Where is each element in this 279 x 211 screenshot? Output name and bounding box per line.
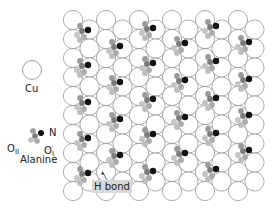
cu-atom [228, 124, 247, 143]
cu-atom [212, 39, 231, 58]
cu-atom [113, 96, 132, 115]
cu-atom [113, 58, 132, 77]
cu-atom [179, 172, 198, 191]
cu-atom [195, 105, 214, 124]
cu-atom [146, 77, 165, 96]
alanine-label: Alanine [20, 155, 57, 165]
oxygen-ii-label: OII [7, 144, 19, 156]
cu-atom [162, 10, 181, 29]
cu-atom [96, 10, 115, 29]
cu-atom [195, 181, 214, 200]
alanine-on-cu-diagram [0, 0, 279, 211]
cu-atom [113, 134, 132, 153]
cu-atom [228, 10, 247, 29]
cu-atom [63, 105, 82, 124]
cu-atom [212, 77, 231, 96]
cu-atom [245, 153, 264, 172]
cu-atom [179, 58, 198, 77]
cu-atom [179, 96, 198, 115]
cu-atom [146, 39, 165, 58]
cu-atom [129, 181, 148, 200]
oxygen-ii-subscript: II [15, 148, 19, 156]
nitrogen-label: N [49, 128, 56, 138]
cu-atom [195, 143, 214, 162]
cu-atom [80, 115, 99, 134]
cu-label: Cu [25, 84, 38, 94]
cu-atom [228, 162, 247, 181]
legend-cu-atom-icon [23, 61, 42, 80]
cu-atom [212, 134, 231, 153]
cu-atom [179, 134, 198, 153]
cu-atom [146, 115, 165, 134]
legend-alanine-icon [28, 128, 44, 144]
oxygen-ii-symbol: O [7, 143, 15, 154]
cu-atom [245, 20, 264, 39]
cu-atom [146, 172, 165, 191]
cu-atom [245, 58, 264, 77]
cu-atom [80, 39, 99, 58]
cu-atom [228, 86, 247, 105]
cu-atom [212, 172, 231, 191]
cu-lattice [63, 10, 264, 200]
cu-atom [179, 20, 198, 39]
cu-atom [113, 20, 132, 39]
hbond-label: H bond [92, 180, 132, 193]
cu-atom [245, 172, 264, 191]
cu-atom [80, 77, 99, 96]
cu-atom [212, 20, 231, 39]
cu-atom [228, 181, 247, 200]
cu-atom [162, 181, 181, 200]
